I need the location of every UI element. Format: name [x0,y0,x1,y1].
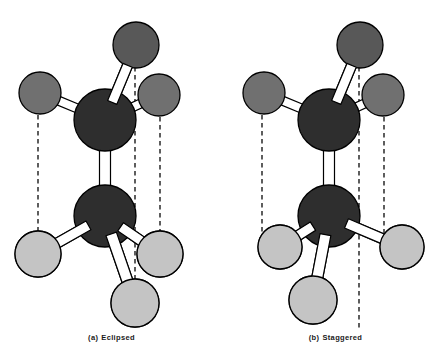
atom-hydrogen-upper-right [362,74,404,116]
atom-carbon-upper [298,89,360,151]
atom-hydrogen-upper-back [113,22,159,68]
atom-hydrogen-lower-right-front [380,225,424,269]
caption-eclipsed-label: (a) [88,333,98,342]
atom-hydrogen-lower-right-front [137,231,183,277]
caption-eclipsed-text: Eclipsed [101,333,135,342]
caption-eclipsed: (a)Eclipsed [0,333,223,342]
atom-hydrogen-upper-back [337,22,383,68]
eclipsed-molecule-drawing [0,0,223,333]
panel-eclipsed: (a)Eclipsed [0,0,223,353]
bond-clower-h-right-front [345,219,385,244]
atom-carbon-upper [74,89,136,151]
atom-hydrogen-upper-right [138,74,180,116]
bond-cupper-h-back-front [108,63,133,104]
bond-c-c [100,145,111,191]
panel-staggered: (b)Staggered [224,0,447,353]
atom-hydrogen-lower-front-front [111,279,159,327]
atom-hydrogen-lower-front-front [289,276,337,324]
bond-cupper-h-back-front [332,63,357,104]
atom-hydrogen-lower-left-front [15,231,61,277]
atom-hydrogen-upper-left [243,72,285,114]
atom-hydrogen-lower-left-front [258,225,302,269]
caption-staggered-label: (b) [309,333,320,342]
staggered-molecule-drawing [224,0,447,333]
caption-staggered: (b)Staggered [224,333,447,342]
bond-c-c [324,145,335,191]
ethane-conformation-figure: (a)Eclipsed (b)Staggered [0,0,447,353]
bond-clower-h-front-front [106,232,133,283]
atom-hydrogen-upper-left [19,72,61,114]
caption-staggered-text: Staggered [322,333,362,342]
